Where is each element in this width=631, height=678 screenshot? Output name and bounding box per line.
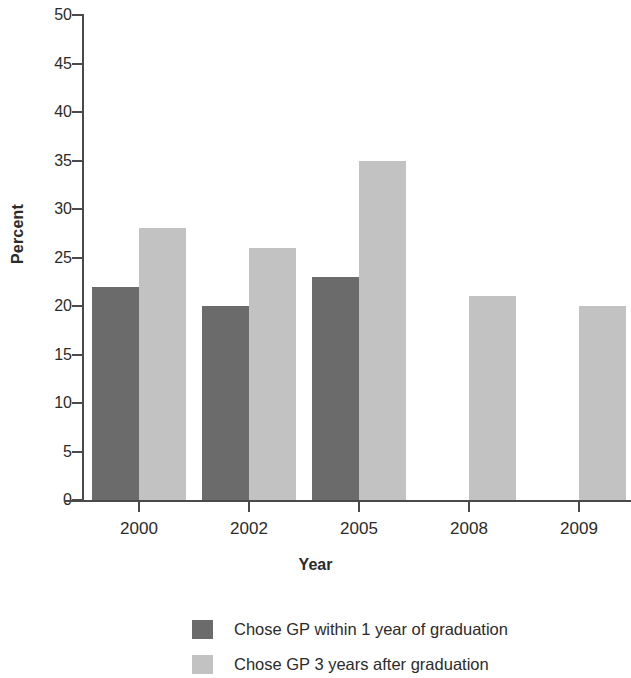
- bar: [202, 306, 249, 500]
- bar-chart-figure: Percent 05101520253035404550 20002002200…: [0, 0, 631, 678]
- bars-group: [0, 15, 631, 500]
- x-tick-label: 2005: [340, 519, 378, 539]
- legend-label: Chose GP 3 years after graduation: [234, 655, 489, 674]
- legend-label: Chose GP within 1 year of graduation: [234, 620, 508, 639]
- x-tick-label: 2000: [120, 519, 158, 539]
- bar: [312, 277, 359, 500]
- bar: [469, 296, 516, 500]
- legend-swatch-icon: [192, 620, 213, 639]
- x-tick-mark: [138, 501, 140, 512]
- x-tick-mark: [468, 501, 470, 512]
- x-axis-line: [64, 500, 631, 502]
- x-tick-label: 2009: [560, 519, 598, 539]
- bar: [92, 287, 139, 500]
- bar: [139, 228, 186, 500]
- x-tick-label: 2002: [230, 519, 268, 539]
- chart-legend: Chose GP within 1 year of graduationChos…: [192, 612, 612, 678]
- bar: [359, 161, 406, 501]
- bar: [249, 248, 296, 500]
- x-tick-mark: [578, 501, 580, 512]
- bar: [579, 306, 626, 500]
- legend-item: Chose GP 3 years after graduation: [192, 647, 612, 678]
- x-tick-label: 2008: [450, 519, 488, 539]
- legend-swatch-icon: [192, 655, 213, 674]
- x-axis-title: Year: [0, 556, 631, 574]
- x-tick-mark: [248, 501, 250, 512]
- x-tick-mark: [358, 501, 360, 512]
- legend-item: Chose GP within 1 year of graduation: [192, 612, 612, 647]
